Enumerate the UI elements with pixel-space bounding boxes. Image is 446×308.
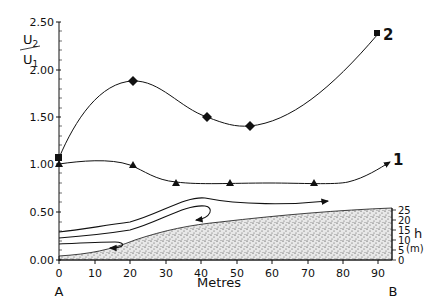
- point-b-label: B: [389, 284, 398, 299]
- right-axis-ticks: 25 20 15 10 5 0: [398, 205, 411, 266]
- y-tick-1.00: 1.00: [30, 158, 55, 171]
- svg-text:20: 20: [123, 267, 137, 280]
- series-2-markers: [55, 30, 380, 161]
- svg-text:80: 80: [336, 267, 350, 280]
- series-1-line: [59, 161, 390, 184]
- right-axis-unit: (m): [406, 243, 424, 254]
- svg-text:10: 10: [88, 267, 102, 280]
- chart-canvas: 2.50 2.00 1.50 1.00 0.50 0.00 U2 U1 0 10…: [0, 0, 446, 308]
- dune-profile: [59, 208, 392, 260]
- svg-text:U1: U1: [23, 52, 38, 69]
- series-1-label: 1: [393, 151, 403, 169]
- x-axis-label: Metres: [197, 275, 241, 290]
- svg-text:0: 0: [56, 267, 63, 280]
- series-2-label: 2: [383, 26, 393, 44]
- right-axis-label-h: h: [414, 226, 422, 241]
- svg-text:70: 70: [301, 267, 315, 280]
- streamline-eddy-lower: [59, 242, 123, 248]
- svg-text:30: 30: [159, 267, 173, 280]
- y-tick-0.00: 0.00: [30, 254, 55, 267]
- point-a-label: A: [55, 284, 64, 299]
- svg-text:90: 90: [371, 267, 385, 280]
- y-tick-1.50: 1.50: [30, 111, 55, 124]
- svg-text:0: 0: [398, 255, 404, 266]
- svg-text:60: 60: [265, 267, 279, 280]
- series-2-line: [59, 34, 378, 158]
- y-tick-2.50: 2.50: [30, 16, 55, 29]
- y-axis-label: U2 U1: [20, 32, 40, 69]
- y-tick-0.50: 0.50: [30, 206, 55, 219]
- series-1-markers: [55, 160, 318, 186]
